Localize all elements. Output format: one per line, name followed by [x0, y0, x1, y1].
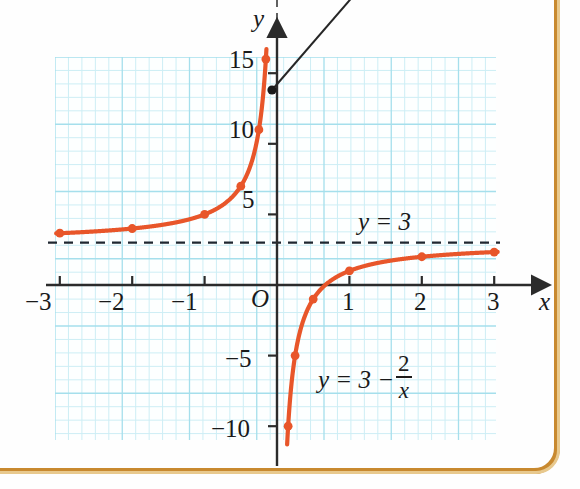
x-tick-label-2: 2	[414, 288, 427, 316]
x-tick-label--3: −3	[25, 288, 52, 316]
curve-equation-label: y = 3 −2x	[318, 352, 412, 402]
curve-point	[490, 248, 499, 257]
curve-point	[345, 266, 354, 275]
y-tick-label--5: −5	[225, 345, 252, 373]
y-axis-label: y	[253, 5, 264, 33]
x-tick-label--2: −2	[98, 288, 125, 316]
curve-point	[128, 224, 137, 233]
curve-point	[284, 422, 293, 431]
y-tick-label-10: 10	[229, 116, 254, 144]
curve-point	[309, 295, 318, 304]
graph-canvas	[0, 0, 580, 489]
curve-point	[291, 351, 300, 360]
y-tick-label-15: 15	[229, 46, 254, 74]
x-axis-label: x	[539, 288, 550, 316]
grid-background	[55, 57, 496, 440]
asymptote-label: y = 3	[358, 208, 411, 236]
origin-label: O	[251, 285, 269, 313]
curve-point	[200, 210, 209, 219]
y-tick-label-5: 5	[242, 186, 255, 214]
curve-point	[417, 252, 426, 261]
curve-point	[255, 125, 264, 134]
fraction-numerator: 2	[396, 352, 412, 375]
figure-page: −3 −2 −1 1 2 3 O 15 10 5 −5 −10 x y y = …	[0, 0, 580, 489]
y-tick-label--10: −10	[211, 415, 250, 443]
fraction-two-over-x: 2x	[396, 352, 412, 402]
x-tick-label-1: 1	[342, 288, 355, 316]
curve-point	[55, 229, 64, 238]
curve-equation-prefix: y = 3 −	[318, 366, 394, 393]
x-tick-label--1: −1	[171, 288, 198, 316]
x-tick-label-3: 3	[487, 288, 500, 316]
fraction-denominator: x	[396, 379, 412, 402]
curve-point	[261, 55, 270, 64]
